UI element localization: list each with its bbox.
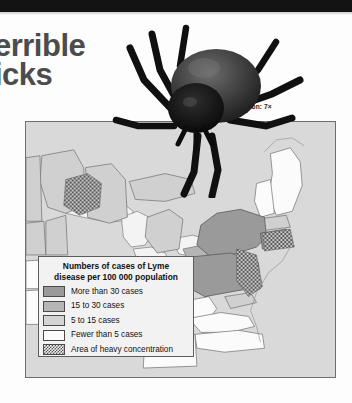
lyme-disease-map: Numbers of cases of Lyme disease per 100… [25, 121, 336, 378]
legend-item-more-than-30: More than 30 cases [43, 285, 193, 300]
legend-label-5-to-15: 5 to 15 cases [71, 317, 120, 325]
top-bar-shadow [0, 12, 352, 15]
legend-item-5-to-15: 5 to 15 cases [43, 314, 193, 329]
legend-label-more-than-30: More than 30 cases [71, 288, 143, 296]
legend-swatch-heavy-concentration [43, 344, 65, 355]
legend-rows: More than 30 cases 15 to 30 cases 5 to 1… [39, 285, 193, 358]
map-legend: Numbers of cases of Lyme disease per 100… [38, 256, 194, 357]
legend-item-15-to-30: 15 to 30 cases [43, 299, 193, 314]
legend-label-heavy-concentration: Area of heavy concentration [71, 346, 173, 354]
legend-title-line-2: disease per 100 000 population [43, 272, 189, 283]
legend-swatch-more-than-30 [43, 286, 65, 297]
magnification-caption: Magnification: 7× [216, 103, 272, 110]
legend-title: Numbers of cases of Lyme disease per 100… [39, 257, 193, 285]
legend-label-15-to-30: 15 to 30 cases [71, 302, 124, 310]
page-title: errible icks [0, 32, 134, 89]
legend-label-fewer-than-5: Fewer than 5 cases [71, 331, 142, 339]
legend-item-heavy-concentration: Area of heavy concentration [43, 343, 193, 358]
legend-item-fewer-than-5: Fewer than 5 cases [43, 328, 193, 343]
page-root: errible icks [0, 0, 352, 403]
legend-swatch-fewer-than-5 [43, 330, 65, 341]
legend-swatch-5-to-15 [43, 315, 65, 326]
top-black-bar [0, 0, 352, 12]
legend-title-line-1: Numbers of cases of Lyme [43, 261, 189, 272]
legend-swatch-15-to-30 [43, 301, 65, 312]
tick-abdomen [171, 49, 261, 123]
